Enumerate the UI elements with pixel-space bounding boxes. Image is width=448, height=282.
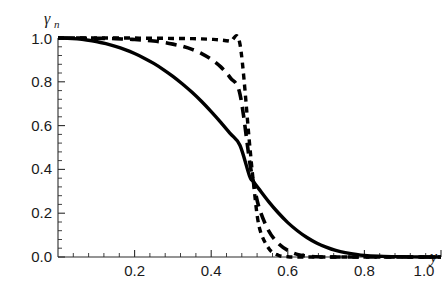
y-tick-label: 0.0 (31, 248, 52, 265)
y-tick-marks (58, 38, 65, 257)
y-axis-title-subscript: n (54, 18, 60, 30)
data-curves-group (58, 36, 441, 257)
y-tick-label: 0.8 (31, 73, 52, 90)
x-tick-label: 0.2 (124, 262, 145, 279)
x-tick-label: 0.4 (201, 262, 222, 279)
line-chart-canvas: 0.2 0.4 0.6 0.8 1.0 0.0 0.2 0.4 0.6 0.8 … (0, 0, 448, 282)
x-tick-label: 0.6 (277, 262, 298, 279)
y-tick-label: 0.4 (31, 160, 52, 177)
x-tick-labels: 0.2 0.4 0.6 0.8 1.0 (124, 262, 434, 279)
curve-short-dash (58, 36, 441, 257)
curve-long-dash (58, 38, 441, 257)
y-tick-label: 1.0 (31, 30, 52, 47)
y-axis-title: γ (44, 10, 51, 28)
chart-figure: 0.2 0.4 0.6 0.8 1.0 0.0 0.2 0.4 0.6 0.8 … (0, 0, 448, 282)
y-tick-labels: 0.0 0.2 0.4 0.6 0.8 1.0 (31, 30, 52, 266)
y-tick-label: 0.6 (31, 117, 52, 134)
y-tick-label: 0.2 (31, 204, 52, 221)
x-tick-label: 0.8 (354, 262, 375, 279)
